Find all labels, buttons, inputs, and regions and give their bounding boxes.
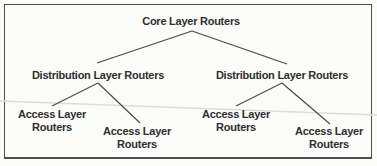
node-distribution-layer-routers-left: Distribution Layer Routers bbox=[32, 69, 164, 82]
edge-distribution-left-to-access-far-left bbox=[52, 83, 98, 106]
node-distribution-layer-routers-right: Distribution Layer Routers bbox=[216, 69, 348, 82]
edge-core-to-distribution-right bbox=[192, 31, 287, 64]
node-access-layer-routers-mid-right: Access Layer Routers bbox=[202, 108, 270, 134]
node-label-line: Routers bbox=[18, 121, 86, 134]
node-label-line: Access Layer bbox=[295, 125, 363, 138]
node-label-line: Routers bbox=[295, 138, 363, 151]
edge-distribution-left-to-access-mid-left bbox=[98, 83, 140, 123]
node-label-line: Access Layer bbox=[18, 108, 86, 121]
node-label-line: Routers bbox=[103, 138, 171, 151]
node-access-layer-routers-mid-left: Access Layer Routers bbox=[103, 125, 171, 151]
node-label-line: Access Layer bbox=[103, 125, 171, 138]
node-core-layer-routers: Core Layer Routers bbox=[142, 15, 240, 28]
edge-distribution-right-to-access-far-right bbox=[282, 83, 330, 124]
network-hierarchy-diagram: Core Layer Routers Distribution Layer Ro… bbox=[0, 0, 377, 166]
node-label-line: Routers bbox=[202, 121, 270, 134]
edge-core-to-distribution-left bbox=[97, 31, 192, 63]
edge-distribution-right-to-access-mid-right bbox=[236, 83, 282, 106]
node-access-layer-routers-far-left: Access Layer Routers bbox=[18, 108, 86, 134]
node-label-line: Access Layer bbox=[202, 108, 270, 121]
node-access-layer-routers-far-right: Access Layer Routers bbox=[295, 125, 363, 151]
